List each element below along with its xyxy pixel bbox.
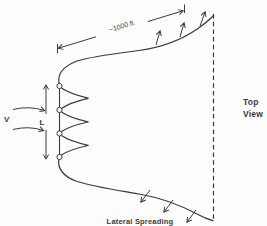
lateral-spreading-label: Lateral Spreading	[107, 217, 174, 226]
view-label-line2: View	[243, 109, 263, 119]
plume-boundary-top	[59, 16, 214, 85]
spreading-arrow	[180, 23, 184, 37]
port-circle-2	[57, 107, 62, 112]
jet-2	[62, 112, 89, 132]
current-arrow-lower	[13, 128, 44, 131]
distance-dimension-label: ~1000 ft	[108, 19, 134, 33]
jet-3	[62, 136, 89, 155]
diagram-canvas: L ~1000 ft V Top View Lat	[0, 0, 267, 226]
jet-1	[62, 88, 89, 108]
merging-jets	[62, 88, 89, 155]
distance-dim-right-segment	[148, 11, 183, 22]
plume-boundary-bottom	[59, 158, 214, 221]
port-circle-3	[57, 131, 62, 136]
distance-dim-left-segment	[59, 37, 97, 48]
spreading-arrow	[156, 31, 160, 45]
view-label-line1: Top	[243, 97, 259, 107]
port-circle-1	[57, 83, 62, 88]
diffuser-length-label: L	[40, 118, 45, 127]
top-view-lateral-spreading-diagram: L ~1000 ft V Top View Lat	[0, 0, 267, 226]
velocity-label: V	[4, 115, 10, 124]
port-circle-4	[57, 154, 62, 159]
current-arrow-upper	[13, 108, 45, 111]
